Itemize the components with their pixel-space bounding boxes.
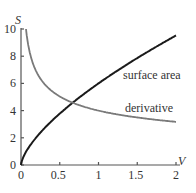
x-tick-label: 1 bbox=[96, 169, 102, 181]
x-axis-label: V bbox=[178, 155, 185, 167]
chart-plot bbox=[0, 0, 196, 193]
x-tick-label: 0.5 bbox=[51, 169, 66, 181]
surface-area-label: surface area bbox=[123, 69, 181, 81]
y-tick-label: 6 bbox=[10, 77, 16, 89]
x-tick-label: 0 bbox=[18, 169, 24, 181]
axes bbox=[21, 28, 180, 165]
x-tick-label: 1.5 bbox=[128, 169, 143, 181]
y-tick-label: 4 bbox=[10, 105, 16, 117]
y-tick-label: 0 bbox=[10, 159, 16, 171]
x-tick-label: 2 bbox=[173, 169, 179, 181]
y-tick-label: 10 bbox=[4, 23, 16, 35]
y-tick-label: 2 bbox=[10, 132, 16, 144]
derivative-label: derivative bbox=[125, 102, 173, 114]
y-tick-label: 8 bbox=[10, 50, 16, 62]
